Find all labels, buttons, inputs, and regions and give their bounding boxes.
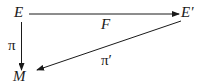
label-pi-prime: π′ [101,53,112,68]
node-E-prime: E′ [181,5,193,20]
label-F: F [101,17,110,32]
node-M: M [13,69,26,84]
commutative-diagram: E E′ M F π π′ [0,0,205,84]
label-pi: π [8,38,16,53]
node-E: E [14,5,23,20]
arrows-layer [0,0,205,84]
